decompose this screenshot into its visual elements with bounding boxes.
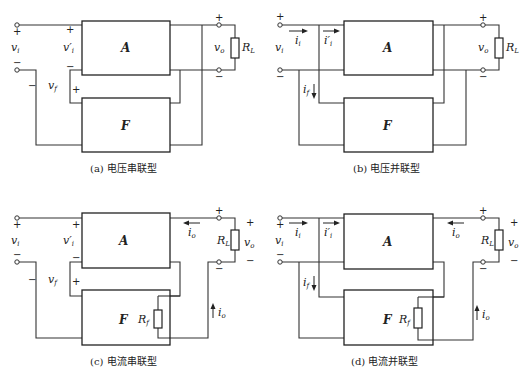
svg-text:−: − (13, 57, 21, 68)
svg-text:F: F (382, 313, 393, 327)
svg-text:+: + (510, 217, 518, 228)
svg-text:if: if (303, 276, 311, 290)
svg-text:−: − (66, 61, 74, 72)
svg-text:−: − (215, 263, 223, 274)
svg-text:vf: vf (48, 79, 58, 93)
svg-text:+: + (246, 217, 254, 228)
svg-text:RL: RL (480, 234, 494, 248)
svg-text:+: + (13, 26, 21, 37)
svg-text:vf: vf (48, 273, 58, 287)
svg-text:A: A (382, 41, 392, 55)
svg-text:vo: vo (214, 41, 224, 55)
svg-text:−: − (276, 71, 284, 82)
panel-b-voltage-shunt: A F + − + − vi ii i′i if vo RL (b) 电压并联型 (275, 11, 519, 174)
svg-text:vi: vi (275, 41, 283, 55)
amplifier-label: A (120, 41, 130, 55)
caption-b: (b) 电压并联型 (353, 162, 420, 174)
svg-text:RL: RL (505, 41, 519, 55)
svg-text:+: + (479, 205, 487, 216)
feedback-amplifier-figure: A F + − + − + − + − vi v′i vf vo RL (a) … (0, 0, 530, 379)
svg-text:+: + (215, 12, 223, 23)
svg-text:io: io (218, 306, 226, 320)
svg-text:ii: ii (295, 34, 301, 48)
svg-text:−: − (479, 263, 487, 274)
svg-text:Rf: Rf (137, 313, 150, 327)
svg-text:vo: vo (478, 41, 488, 55)
svg-text:vo: vo (508, 236, 518, 250)
svg-text:Rf: Rf (398, 313, 411, 327)
svg-text:−: − (479, 71, 487, 82)
svg-text:−: − (28, 80, 36, 91)
load-resistor-a (231, 38, 239, 58)
svg-text:v′i: v′i (63, 41, 74, 55)
svg-text:+: + (276, 11, 284, 22)
svg-text:vi: vi (275, 234, 283, 248)
svg-text:io: io (452, 226, 460, 240)
svg-text:i′i: i′i (324, 34, 332, 48)
caption-d: (d) 电流并联型 (351, 355, 418, 367)
svg-text:vi: vi (11, 41, 19, 55)
svg-text:io: io (188, 226, 196, 240)
feedback-resistor-d (414, 308, 422, 328)
caption-c: (c) 电流串联型 (90, 355, 157, 367)
svg-text:−: − (72, 252, 80, 263)
svg-text:A: A (118, 234, 128, 248)
svg-text:−: − (13, 249, 21, 260)
caption-a: (a) 电压串联型 (90, 162, 157, 174)
svg-text:+: + (72, 276, 80, 287)
svg-text:+: + (13, 219, 21, 230)
svg-text:+: + (479, 12, 487, 23)
svg-text:v′i: v′i (63, 234, 74, 248)
svg-text:+: + (215, 205, 223, 216)
svg-text:−: − (215, 71, 223, 82)
svg-text:RL: RL (216, 234, 230, 248)
feedback-resistor-c (154, 310, 162, 328)
svg-text:−: − (246, 255, 254, 266)
svg-text:−: − (510, 255, 518, 266)
svg-text:−: − (28, 274, 36, 285)
svg-text:ii: ii (295, 226, 301, 240)
svg-text:+: + (276, 219, 284, 230)
svg-text:vi: vi (11, 234, 19, 248)
svg-text:+: + (72, 84, 80, 95)
svg-text:F: F (382, 119, 393, 133)
svg-text:F: F (118, 313, 129, 327)
panel-d-current-shunt: A F + − + − + − vi ii i′i if io io RL vo… (275, 205, 518, 367)
svg-text:+: + (66, 24, 74, 35)
svg-text:vo: vo (244, 236, 254, 250)
svg-text:if: if (303, 83, 311, 97)
svg-text:i′i: i′i (324, 226, 332, 240)
svg-text:A: A (382, 235, 392, 249)
svg-text:io: io (482, 308, 490, 322)
svg-text:+: + (72, 219, 80, 230)
feedback-label: F (120, 119, 131, 133)
svg-text:RL: RL (241, 41, 255, 55)
panel-c-current-series: A F + − + − + − + − + − vi v′i vf io io … (11, 205, 254, 367)
panel-a-voltage-series: A F + − + − + − + − vi v′i vf vo RL (a) … (11, 12, 255, 174)
svg-text:−: − (276, 249, 284, 260)
